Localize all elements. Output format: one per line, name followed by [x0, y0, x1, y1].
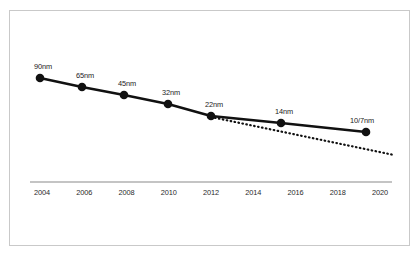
- x-axis-tick-label: 2018: [330, 188, 346, 197]
- data-point-label: 10/7nm: [350, 116, 374, 125]
- data-point-label: 32nm: [162, 88, 180, 97]
- x-axis-tick-label: 2012: [203, 188, 219, 197]
- data-point-label: 65nm: [76, 71, 94, 80]
- x-axis-tick-label: 2006: [76, 188, 92, 197]
- x-axis-tick-label: 2010: [161, 188, 177, 197]
- data-point-label: 22nm: [205, 100, 223, 109]
- x-axis-tick-label: 2014: [245, 188, 261, 197]
- data-point-label: 14nm: [275, 107, 293, 116]
- x-axis-tick-label: 2020: [372, 188, 388, 197]
- data-point-label: 45nm: [118, 79, 136, 88]
- chart-frame: [9, 10, 410, 246]
- data-point-label: 90nm: [34, 62, 52, 71]
- x-axis-tick-label: 2008: [118, 188, 134, 197]
- x-axis-tick-label: 2016: [287, 188, 303, 197]
- x-axis-tick-label: 2004: [34, 188, 50, 197]
